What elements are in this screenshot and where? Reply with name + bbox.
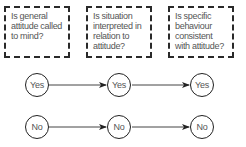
node-label: No — [32, 122, 43, 132]
yes-node-3: Yes — [190, 73, 214, 97]
no-node-1: No — [25, 115, 49, 139]
node-label: Yes — [195, 80, 209, 90]
yes-node-2: Yes — [107, 73, 131, 97]
node-label: Yes — [112, 80, 126, 90]
node-label: No — [114, 122, 125, 132]
no-node-3: No — [190, 115, 214, 139]
no-node-2: No — [107, 115, 131, 139]
node-label: Yes — [30, 80, 44, 90]
yes-node-1: Yes — [25, 73, 49, 97]
node-label: No — [197, 122, 208, 132]
